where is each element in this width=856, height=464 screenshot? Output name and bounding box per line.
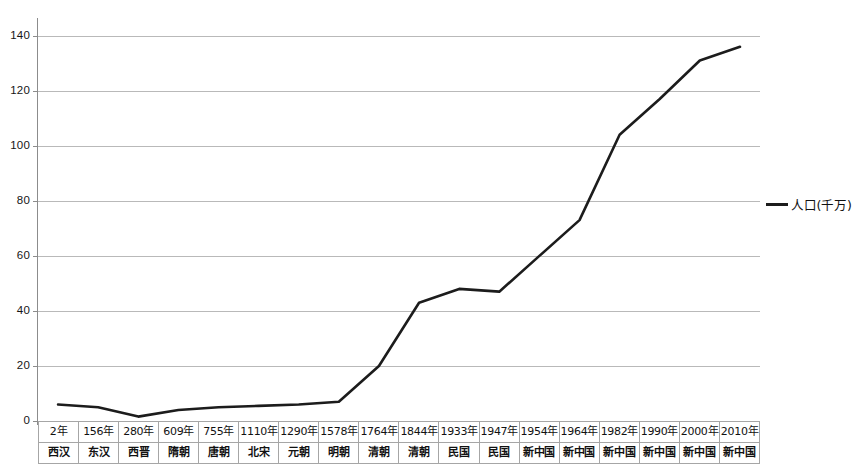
category-era-cell: 新中国 [599,443,639,464]
category-era-cell: 新中国 [679,443,719,464]
category-era-cell: 唐朝 [199,443,239,464]
series-population-line [38,22,760,421]
category-era-cell: 北宋 [239,443,279,464]
category-era-cell: 明朝 [319,443,359,464]
category-year-cell: 2年 [39,422,79,443]
series-polyline [58,47,740,417]
y-tick-label-100: 100 [2,140,30,152]
y-tick-20: 20 [0,360,30,372]
category-era-cell: 东汉 [79,443,119,464]
category-era-cell: 新中国 [719,443,759,464]
category-year-cell: 2000年 [679,422,719,443]
y-tick-label-0: 0 [2,415,30,427]
y-tick-80: 80 [0,195,30,207]
category-year-cell: 1964年 [559,422,599,443]
category-era-cell: 西汉 [39,443,79,464]
category-year-cell: 280年 [119,422,159,443]
category-year-cell: 755年 [199,422,239,443]
category-year-cell: 1982年 [599,422,639,443]
category-year-cell: 1844年 [399,422,439,443]
chart-legend: 人口(千万) [766,195,852,214]
y-tick-label-80: 80 [2,195,30,207]
category-era-cell: 隋朝 [159,443,199,464]
category-year-cell: 1954年 [519,422,559,443]
category-year-cell: 156年 [79,422,119,443]
y-tick-label-40: 40 [2,305,30,317]
y-tick-140: 140 [0,30,30,42]
category-era-cell: 新中国 [639,443,679,464]
category-year-cell: 609年 [159,422,199,443]
category-year-cell: 1764年 [359,422,399,443]
category-year-cell: 2010年 [719,422,759,443]
plot-area [38,22,760,421]
category-axis-table: 2年156年280年609年755年1110年1290年1578年1764年18… [38,421,760,464]
category-era-cell: 民国 [439,443,479,464]
category-year-row: 2年156年280年609年755年1110年1290年1578年1764年18… [39,422,760,443]
legend-line-swatch [766,203,788,206]
y-tick-40: 40 [0,305,30,317]
y-tick-120: 120 [0,85,30,97]
category-era-cell: 新中国 [519,443,559,464]
legend-label-population: 人口(千万) [791,195,852,214]
category-era-cell: 清朝 [359,443,399,464]
y-tick-100: 100 [0,140,30,152]
category-year-cell: 1990年 [639,422,679,443]
y-tick-label-140: 140 [2,30,30,42]
y-tick-60: 60 [0,250,30,262]
category-year-cell: 1947年 [479,422,519,443]
category-year-cell: 1933年 [439,422,479,443]
category-era-cell: 民国 [479,443,519,464]
category-era-cell: 西晋 [119,443,159,464]
category-year-cell: 1290年 [279,422,319,443]
category-era-cell: 清朝 [399,443,439,464]
category-year-cell: 1578年 [319,422,359,443]
y-tick-0: 0 [0,415,30,427]
y-tick-label-20: 20 [2,360,30,372]
category-era-cell: 元朝 [279,443,319,464]
category-era-cell: 新中国 [559,443,599,464]
category-year-cell: 1110年 [239,422,279,443]
category-era-row: 西汉东汉西晋隋朝唐朝北宋元朝明朝清朝清朝民国民国新中国新中国新中国新中国新中国新… [39,443,760,464]
y-tick-label-120: 120 [2,85,30,97]
y-tick-label-60: 60 [2,250,30,262]
